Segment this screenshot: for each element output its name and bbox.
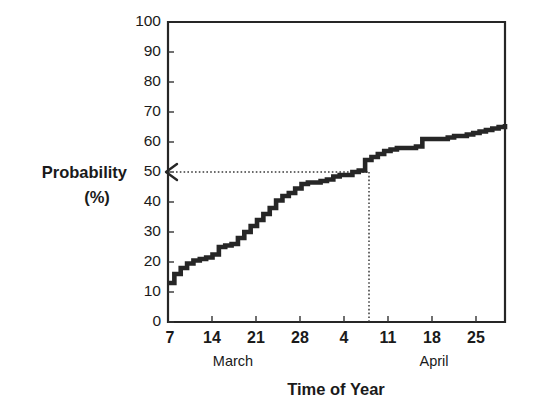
chart-svg: 100 90 80 70 60 50 40 30 20 10 0 7 14 21 (0, 0, 533, 411)
x-axis-tick-labels: 7 14 21 28 4 11 18 25 (166, 329, 485, 346)
y-tick-label-40: 40 (144, 192, 162, 209)
x-tick-label-11: 11 (380, 329, 397, 346)
y-tick-label-60: 60 (144, 132, 162, 149)
y-tick-label-20: 20 (144, 252, 162, 269)
x-tick-label-4: 4 (340, 329, 349, 346)
x-axis-month-labels: March April (213, 353, 449, 369)
y-tick-label-30: 30 (144, 222, 162, 239)
y-tick-label-10: 10 (144, 282, 162, 299)
x-tick-label-21: 21 (247, 329, 265, 346)
x-tick-label-14: 14 (203, 329, 221, 346)
y-tick-label-90: 90 (144, 42, 162, 59)
y-tick-label-0: 0 (152, 312, 161, 329)
x-tick-label-18: 18 (423, 329, 441, 346)
guide-annotation (166, 164, 369, 322)
x-tick-label-25: 25 (467, 329, 485, 346)
y-tick-label-80: 80 (144, 72, 162, 89)
month-label-march: March (213, 353, 253, 369)
y-tick-label-50: 50 (144, 162, 162, 179)
x-tick-label-7: 7 (166, 329, 175, 346)
x-tick-label-28: 28 (291, 329, 309, 346)
y-axis-title: Probability (%) (42, 163, 128, 206)
y-axis-tick-labels: 100 90 80 70 60 50 40 30 20 10 0 (135, 12, 161, 329)
x-axis-title: Time of Year (287, 380, 385, 398)
probability-curve (168, 124, 505, 283)
y-tick-label-70: 70 (144, 102, 162, 119)
y-axis-title-text: Probability (42, 163, 128, 181)
y-axis-title-units: (%) (84, 188, 110, 206)
month-label-april: April (419, 353, 448, 369)
probability-time-of-year-chart: 100 90 80 70 60 50 40 30 20 10 0 7 14 21 (0, 0, 533, 411)
y-tick-label-100: 100 (135, 12, 161, 29)
